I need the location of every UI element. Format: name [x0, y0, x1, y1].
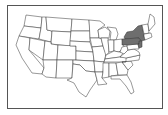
highlighted-states [122, 25, 145, 48]
state-wyoming [51, 31, 71, 46]
west-states [16, 15, 76, 78]
state-mississippi [102, 63, 109, 78]
state-arkansas [94, 61, 104, 72]
state-kansas [76, 51, 94, 61]
state-south-dakota [70, 31, 90, 42]
state-massachusetts-ct-ri [144, 33, 152, 40]
state-north-dakota [71, 19, 90, 31]
state-colorado [57, 45, 76, 60]
state-florida [111, 75, 134, 94]
state-iowa [90, 38, 103, 47]
state-montana [46, 17, 72, 32]
state-new-mexico [56, 60, 73, 78]
new-england-states [142, 14, 155, 40]
us-map [0, 0, 168, 115]
state-maine [148, 14, 155, 31]
state-indiana [108, 40, 114, 52]
state-washington [24, 15, 42, 28]
state-arizona [42, 60, 57, 78]
